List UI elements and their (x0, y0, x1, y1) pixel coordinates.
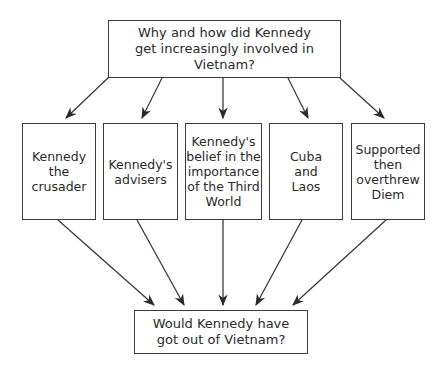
arrow-factor-2-to-bottom (137, 220, 184, 305)
factor-label: Cuba and Laos (290, 149, 322, 194)
arrow-factor-4-to-bottom (256, 220, 302, 305)
bottom-question-text: Would Kennedy have got out of Vietnam? (153, 316, 290, 348)
factor-box-diem: Supported then overthrew Diem (351, 123, 425, 220)
factor-label: Supported then overthrew Diem (355, 142, 420, 202)
factor-box-crusader: Kennedy the crusader (22, 123, 96, 220)
factor-label: Kennedy the crusader (32, 149, 87, 194)
arrow-top-to-factor-5 (340, 78, 384, 118)
factor-box-cuba-laos: Cuba and Laos (269, 123, 343, 220)
arrow-factor-1-to-bottom (58, 220, 154, 305)
top-question-box: Why and how did Kennedy get increasingly… (108, 20, 341, 78)
top-question-text: Why and how did Kennedy get increasingly… (135, 25, 314, 73)
factor-box-third-world: Kennedy's belief in the importance of th… (185, 123, 262, 220)
factor-label: Kennedy's belief in the importance of th… (186, 134, 261, 209)
arrow-factor-5-to-bottom (293, 220, 386, 305)
factor-label: Kennedy's advisers (108, 157, 172, 187)
arrow-top-to-factor-1 (66, 77, 109, 118)
arrow-top-to-factor-4 (288, 78, 308, 118)
bottom-question-box: Would Kennedy have got out of Vietnam? (134, 310, 308, 354)
arrow-top-to-factor-2 (142, 78, 162, 118)
factor-box-advisers: Kennedy's advisers (103, 123, 178, 220)
